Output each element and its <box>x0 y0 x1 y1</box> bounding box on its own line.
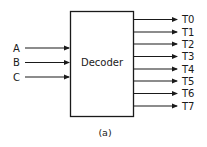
output-t0: T0 <box>134 14 194 25</box>
svg-text:T4: T4 <box>181 64 194 75</box>
svg-text:T6: T6 <box>181 88 194 99</box>
figure-caption: (a) <box>98 127 111 138</box>
svg-text:C: C <box>13 72 20 83</box>
output-t4: T4 <box>134 64 194 75</box>
svg-text:T5: T5 <box>181 76 194 87</box>
output-t1: T1 <box>134 27 194 38</box>
svg-text:A: A <box>13 43 20 54</box>
input-a: A <box>13 43 69 54</box>
svg-text:T0: T0 <box>181 14 194 25</box>
svg-text:T3: T3 <box>181 51 194 62</box>
decoder-diagram: Decoder A B C T0 T1 T2 T3 T4 T5 T6 <box>0 0 207 147</box>
decoder-label: Decoder <box>81 57 124 68</box>
output-t3: T3 <box>134 51 194 62</box>
svg-text:T7: T7 <box>181 101 194 112</box>
output-t5: T5 <box>134 76 194 87</box>
svg-text:T2: T2 <box>181 39 194 50</box>
input-b: B <box>13 57 69 68</box>
svg-text:B: B <box>13 57 20 68</box>
input-c: C <box>13 72 69 83</box>
output-t2: T2 <box>134 39 194 50</box>
output-t6: T6 <box>134 88 194 99</box>
output-t7: T7 <box>134 101 194 112</box>
svg-text:T1: T1 <box>181 27 194 38</box>
